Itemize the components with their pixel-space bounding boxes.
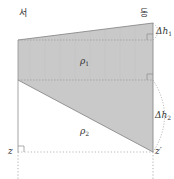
z-prime-label: z′ bbox=[155, 147, 162, 156]
east-label: 동 bbox=[140, 9, 148, 18]
z-label: z bbox=[8, 147, 13, 156]
dh1-label: Δh1 bbox=[156, 27, 172, 37]
west-label: 서 bbox=[19, 9, 27, 18]
rho2-label: ρ2 bbox=[80, 127, 89, 137]
right-angle-marker-z bbox=[18, 146, 24, 152]
rho1-label: ρ1 bbox=[80, 57, 89, 67]
diagram-canvas bbox=[0, 0, 174, 179]
dh2-label: Δh2 bbox=[155, 111, 171, 121]
